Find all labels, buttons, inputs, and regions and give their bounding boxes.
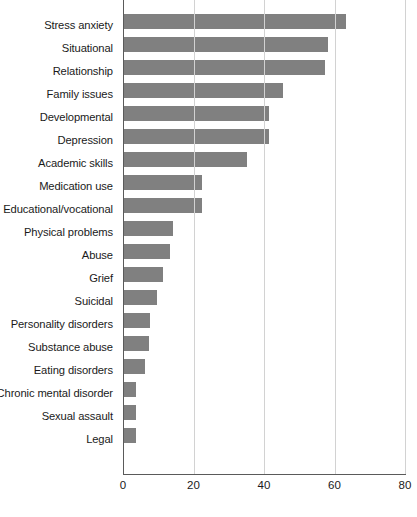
- x-tick-label: 0: [120, 479, 126, 491]
- bar: [124, 198, 202, 213]
- x-axis-line: [123, 474, 406, 475]
- bar: [124, 106, 269, 121]
- bar: [124, 290, 157, 305]
- category-label: Suicidal: [0, 290, 118, 313]
- bar: [124, 359, 145, 374]
- bar-chart: Stress anxietySituationalRelationshipFam…: [0, 0, 417, 517]
- bar: [124, 14, 346, 29]
- bar: [124, 129, 269, 144]
- category-label: Medication use: [0, 175, 118, 198]
- category-label: Physical problems: [0, 221, 118, 244]
- x-tick-label: 60: [328, 479, 341, 491]
- bar: [124, 60, 325, 75]
- category-label: Legal: [0, 428, 118, 451]
- gridline: [194, 0, 195, 474]
- category-label: Depression: [0, 129, 118, 152]
- category-label: Abuse: [0, 244, 118, 267]
- category-label: Family issues: [0, 83, 118, 106]
- bar: [124, 267, 163, 282]
- category-label: Chronic mental disorder: [0, 382, 118, 405]
- category-label: Situational: [0, 37, 118, 60]
- category-label: Substance abuse: [0, 336, 118, 359]
- gridline: [405, 0, 406, 474]
- bar: [124, 382, 136, 397]
- bar: [124, 405, 136, 420]
- category-label: Educational/vocational: [0, 198, 118, 221]
- category-label: Personality disorders: [0, 313, 118, 336]
- bar: [124, 336, 149, 351]
- x-axis-caption: [123, 506, 406, 517]
- bar: [124, 83, 283, 98]
- category-label: Developmental: [0, 106, 118, 129]
- bar: [124, 37, 328, 52]
- plot-area: [123, 0, 405, 474]
- x-tick-label: 40: [258, 479, 271, 491]
- x-tick-label: 20: [187, 479, 200, 491]
- category-label: Stress anxiety: [0, 14, 118, 37]
- x-axis-tick-labels: 020406080: [0, 479, 417, 499]
- bar: [124, 313, 150, 328]
- category-label-column: Stress anxietySituationalRelationshipFam…: [0, 14, 118, 451]
- bar: [124, 175, 202, 190]
- bar: [124, 244, 170, 259]
- category-label: Relationship: [0, 60, 118, 83]
- bar: [124, 428, 136, 443]
- bar: [124, 221, 173, 236]
- category-label: Sexual assault: [0, 405, 118, 428]
- category-label: Grief: [0, 267, 118, 290]
- category-label: Academic skills: [0, 152, 118, 175]
- category-label: Eating disorders: [0, 359, 118, 382]
- gridline: [264, 0, 265, 474]
- bar: [124, 152, 247, 167]
- x-tick-label: 80: [399, 479, 412, 491]
- gridline: [335, 0, 336, 474]
